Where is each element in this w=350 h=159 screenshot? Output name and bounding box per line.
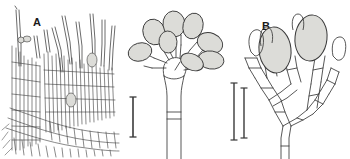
figure-plate: A — [0, 0, 350, 159]
panel-a: A — [0, 0, 120, 159]
panel-c-conidia — [257, 13, 330, 74]
basal-stalks — [269, 100, 313, 159]
panel-label-a: A — [33, 17, 41, 28]
panel-b-conidia — [126, 10, 226, 75]
right-branch-cells — [307, 68, 339, 114]
panel-a-drawing — [0, 0, 120, 159]
panel-c: C — [235, 0, 350, 159]
stipe — [164, 76, 184, 159]
panel-c-drawing — [235, 0, 350, 159]
panel-b: B — [120, 0, 235, 159]
basal-hyphae — [2, 124, 12, 155]
panel-b-drawing — [120, 0, 235, 159]
